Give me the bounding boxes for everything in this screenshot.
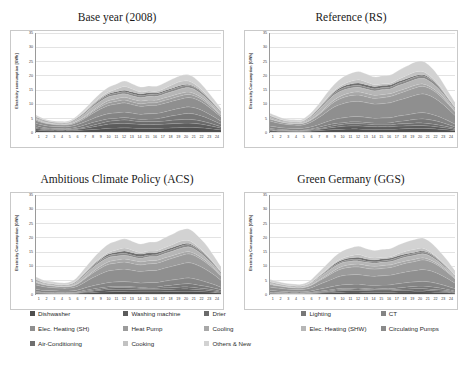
legend-item[interactable]: Circulating Pumps [381,325,460,333]
x-tick-label: 10 [107,297,111,301]
x-tick-label: 2 [280,135,282,139]
y-tick-label: 30 [29,45,33,49]
y-tick-label: 10 [263,264,267,268]
x-tick-label: 4 [295,135,297,139]
legend-item[interactable]: Cooking [123,340,204,348]
x-tick-label: 13 [130,135,134,139]
y-tick-label: 5 [265,117,267,121]
x-tick-label: 2 [46,135,48,139]
y-tick-label: 20 [29,74,33,78]
x-tick-label: 20 [184,297,188,301]
x-tick-label: 16 [387,297,391,301]
x-tick-label: 24 [215,135,219,139]
y-tick-label: 0 [265,293,267,297]
x-tick-label: 18 [403,297,407,301]
panel-base-year: Base year (2008) Electricity consumption… [8,4,226,148]
legend-item[interactable]: Others & New [204,340,301,348]
x-tick-label: 13 [364,297,368,301]
legend-label: Elec. Heating (SHW) [309,325,366,333]
legend-label: Drier [212,310,225,318]
legend-swatch-icon [204,341,209,346]
y-tick-label: 15 [29,88,33,92]
x-tick-label: 7 [84,297,86,301]
y-tick-label: 20 [29,236,33,240]
gridline [36,294,221,295]
x-tick-label: 16 [153,297,157,301]
x-tick-label: 18 [403,135,407,139]
legend-item[interactable]: Washing machine [123,310,204,318]
y-axis-ticks: 35302520151050 [21,195,34,295]
legend-label: Cooling [212,325,233,333]
y-tick-label: 35 [29,31,33,35]
x-tick-label: 15 [145,135,149,139]
gridline [270,294,455,295]
legend-item[interactable]: Heat Pump [123,325,204,333]
x-tick-label: 10 [341,297,345,301]
plot-area: Electricity consumption [GWh] 3530252015… [10,30,224,148]
legend-label: Washing machine [131,310,180,318]
y-tick-label: 0 [31,131,33,135]
x-tick-label: 21 [426,297,430,301]
x-tick-label: 17 [161,297,165,301]
legend-item[interactable]: Elec. Heating (SH) [30,325,123,333]
x-tick-label: 22 [200,135,204,139]
x-tick-label: 14 [138,297,142,301]
y-tick-label: 25 [29,60,33,64]
legend-item[interactable]: Drier [204,310,301,318]
x-tick-label: 2 [280,297,282,301]
x-tick-label: 23 [441,297,445,301]
panel-reference: Reference (RS) Electricity Consumption [… [242,4,460,148]
y-tick-label: 35 [263,31,267,35]
legend-swatch-icon [30,341,35,346]
panel-title: Green Germany (GGS) [242,166,460,192]
legend-item[interactable]: Air-Conditioning [30,340,123,348]
x-tick-label: 21 [192,135,196,139]
x-tick-label: 23 [207,135,211,139]
x-tick-label: 23 [441,135,445,139]
x-tick-label: 8 [92,297,94,301]
x-tick-label: 7 [84,135,86,139]
x-tick-label: 1 [272,135,274,139]
legend-row: DishwasherWashing machineDrierLightingCT [30,306,460,321]
x-tick-label: 19 [410,297,414,301]
legend-label: CT [389,310,397,318]
y-tick-label: 20 [263,74,267,78]
gridline [36,132,221,133]
legend-item[interactable]: Dishwasher [30,310,123,318]
legend-swatch-icon [123,341,128,346]
legend-item[interactable]: Cooling [204,325,301,333]
legend-label: Circulating Pumps [389,325,439,333]
y-tick-label: 30 [263,45,267,49]
x-tick-label: 6 [311,297,313,301]
x-tick-label: 20 [418,297,422,301]
x-tick-label: 7 [318,135,320,139]
y-tick-label: 0 [265,131,267,135]
x-tick-label: 15 [145,297,149,301]
x-tick-label: 5 [303,135,305,139]
x-tick-label: 6 [77,135,79,139]
legend-swatch-icon [381,326,386,331]
legend: DishwasherWashing machineDrierLightingCT… [30,306,460,358]
x-tick-label: 5 [69,297,71,301]
legend-label: Lighting [309,310,331,318]
x-tick-label: 1 [38,135,40,139]
legend-item[interactable]: Lighting [301,310,380,318]
x-tick-label: 19 [176,297,180,301]
x-tick-label: 16 [153,135,157,139]
legend-item[interactable]: CT [381,310,460,318]
x-tick-label: 3 [287,135,289,139]
figure-electricity-consumption-scenarios: Base year (2008) Electricity consumption… [0,0,468,365]
x-tick-label: 10 [341,135,345,139]
y-tick-label: 15 [29,250,33,254]
x-tick-label: 6 [77,297,79,301]
y-tick-label: 25 [29,222,33,226]
y-tick-label: 35 [29,193,33,197]
x-tick-label: 2 [46,297,48,301]
x-tick-label: 18 [169,297,173,301]
legend-item[interactable]: Elec. Heating (SHW) [301,325,380,333]
y-tick-label: 25 [263,222,267,226]
x-tick-label: 24 [449,135,453,139]
gridline [270,132,455,133]
legend-label: Heat Pump [131,325,162,333]
x-tick-label: 20 [184,135,188,139]
